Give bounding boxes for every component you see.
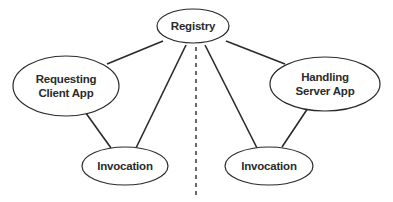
- edge-server-to-invocation-right: [282, 108, 308, 147]
- node-invocation-left: Invocation: [82, 147, 168, 185]
- node-label: Invocation: [97, 160, 153, 172]
- node-registry: Registry: [157, 9, 229, 43]
- edge-client-to-invocation-left: [83, 109, 111, 148]
- node-invocation-right: Invocation: [225, 147, 313, 185]
- edge-registry-to-server: [226, 41, 285, 64]
- edge-registry-to-invocation-left: [136, 45, 186, 148]
- edge-registry-to-invocation-right: [205, 45, 257, 148]
- node-label: Registry: [171, 20, 216, 32]
- node-ellipse: [270, 57, 380, 111]
- registry-invocation-diagram: RegistryRequestingClient AppHandlingServ…: [0, 0, 393, 202]
- node-server: HandlingServer App: [270, 57, 380, 111]
- node-client: RequestingClient App: [13, 56, 119, 116]
- node-label: Requesting: [36, 73, 97, 85]
- node-label: Invocation: [241, 160, 297, 172]
- edge-registry-to-client: [107, 41, 163, 64]
- node-label: Server App: [296, 85, 355, 97]
- node-label: Handling: [301, 71, 349, 83]
- node-ellipse: [13, 56, 119, 116]
- node-label: Client App: [38, 87, 93, 99]
